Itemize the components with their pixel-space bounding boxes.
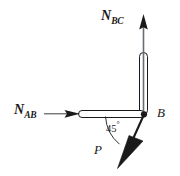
diagram-canvas — [0, 0, 180, 176]
force-ab-symbol: N — [14, 102, 24, 117]
free-body-diagram: NBC NAB B P 45° — [0, 0, 180, 176]
angle-value: 45 — [106, 123, 117, 134]
force-bc-symbol: N — [101, 8, 111, 23]
force-ab-label: NAB — [14, 103, 36, 120]
force-ab-arrow — [44, 110, 80, 118]
force-p-arrow — [118, 115, 145, 169]
joint-b-dot — [141, 111, 147, 117]
angle-label: 45° — [106, 121, 120, 134]
force-p-label: P — [94, 143, 102, 156]
force-bc-subscript: BC — [111, 16, 123, 26]
force-bc-label: NBC — [101, 9, 123, 26]
joint-b-label: B — [157, 106, 165, 119]
member-ab — [79, 111, 145, 118]
degree-symbol: ° — [117, 120, 120, 129]
force-ab-subscript: AB — [24, 110, 36, 120]
